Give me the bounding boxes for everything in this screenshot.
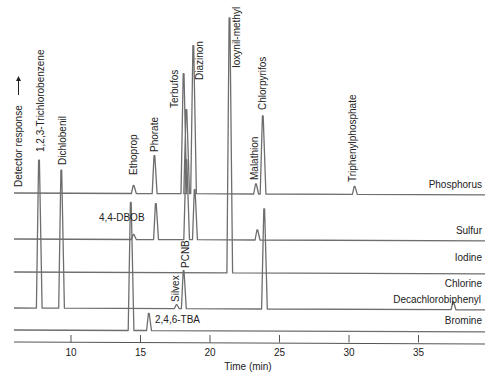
y-axis-label-group: Detector response: [13, 76, 24, 187]
peak-label-ioxynil-methyl: Ioxynil-methyl: [231, 7, 242, 68]
peak-label-dbob: 4,4-DBOB: [99, 212, 145, 223]
x-tick-label: 20: [204, 347, 216, 358]
peak-label-triphenylphosphate: Triphenylphosphate: [347, 94, 358, 182]
peak-label-chlorpyrifos: Chlorpyrifos: [257, 57, 268, 110]
y-axis-label: Detector response: [13, 105, 24, 187]
peak-label-diazinon: Diazinon: [194, 41, 205, 80]
peak-label-tba: 2,4,6-TBA: [155, 314, 200, 325]
channel-label-sulfur: Sulfur: [456, 225, 483, 236]
channel-label-chlorine: Chlorine: [445, 278, 483, 289]
x-axis: 101520253035 Time (min): [14, 335, 485, 372]
trace-bromine: [14, 203, 485, 332]
channel-label-bromine: Bromine: [445, 315, 483, 326]
peak-label-malathion: Malathion: [249, 137, 260, 180]
x-tick-label: 15: [135, 347, 147, 358]
peak-label-terbufos: Terbufos: [169, 70, 180, 108]
peak-label-ethoprop: Ethoprop: [128, 134, 139, 175]
peak-label-pcnb: PCNB: [180, 240, 191, 268]
chromatogram-chart: 101520253035 Time (min) Detector respons…: [0, 0, 496, 383]
channel-label-phosphorus: Phosphorus: [429, 179, 482, 190]
peak-label-trichlorobenzene: 1,2,3-Trichlorobenzene: [35, 49, 46, 152]
channel-label-iodine: Iodine: [455, 252, 483, 263]
peak-label-dichlobenil: Dichlobenil: [57, 116, 68, 165]
x-tick-label: 25: [274, 347, 286, 358]
peak-label-decachlorobiphenyl: Decachlorobiphenyl: [393, 294, 481, 305]
peak-label-phorate: Phorate: [149, 117, 160, 152]
peak-label-silvex: Silvex: [170, 275, 181, 302]
trace-chlorine: [14, 160, 485, 310]
x-tick-label: 35: [413, 347, 425, 358]
x-axis-label: Time (min): [224, 361, 271, 372]
x-tick-label: 10: [65, 347, 77, 358]
x-tick-label: 30: [343, 347, 355, 358]
arrow-right-icon: [16, 76, 21, 81]
